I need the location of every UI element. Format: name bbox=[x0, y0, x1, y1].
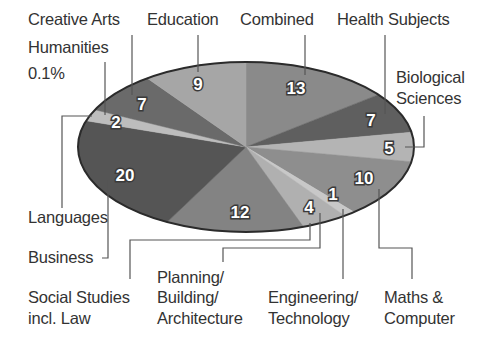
label-planning-line2: Building/ bbox=[157, 288, 219, 307]
value-education: 9 bbox=[193, 75, 202, 94]
value-maths: 10 bbox=[355, 169, 374, 188]
value-combined: 13 bbox=[287, 79, 306, 98]
value-eng: 1 bbox=[328, 185, 337, 204]
label-eng-line1: Engineering/ bbox=[268, 288, 358, 307]
value-planning: 4 bbox=[304, 198, 314, 217]
label-eng-line2: Technology bbox=[268, 309, 349, 328]
label-planning-line1: Planning/ bbox=[157, 268, 224, 287]
label-planning-line3: Architecture bbox=[157, 309, 243, 328]
value-social: 12 bbox=[231, 203, 250, 222]
value-creative-arts: 7 bbox=[137, 95, 146, 114]
value-business: 20 bbox=[116, 166, 135, 185]
label-business: Business bbox=[28, 248, 93, 267]
label-maths-line2: Computer bbox=[384, 309, 455, 328]
label-social-line1: Social Studies bbox=[28, 288, 130, 307]
label-maths-line1: Maths & bbox=[384, 288, 443, 307]
label-languages: Languages bbox=[28, 208, 108, 227]
value-bio: 5 bbox=[384, 139, 393, 158]
label-social-line2: incl. Law bbox=[28, 309, 90, 328]
value-health: 7 bbox=[366, 111, 375, 130]
leader-maths bbox=[379, 189, 412, 279]
label-humanities-pct: 0.1% bbox=[28, 64, 65, 83]
label-education: Education bbox=[147, 10, 219, 29]
label-humanities: Humanities bbox=[28, 38, 109, 57]
value-humanities: 2 bbox=[111, 113, 120, 132]
label-creative-arts: Creative Arts bbox=[28, 10, 120, 29]
label-bio-line2: Sciences bbox=[396, 89, 461, 108]
label-health: Health Subjects bbox=[337, 10, 450, 29]
label-bio-line1: Biological bbox=[396, 68, 465, 87]
label-combined: Combined bbox=[240, 10, 314, 29]
